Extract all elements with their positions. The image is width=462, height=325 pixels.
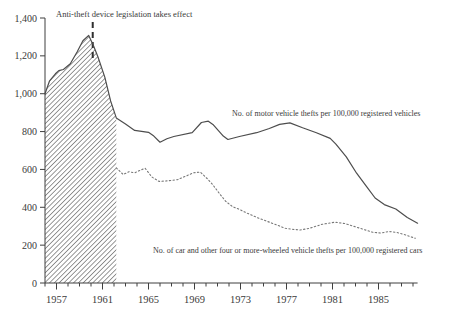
x-tick-label: 1981	[322, 294, 343, 305]
y-tick-label: 600	[22, 164, 37, 175]
y-axis-ticks: 02004006008001,0001,2001,400	[15, 13, 46, 289]
car-thefts-series-label: No. of car and other four or more-wheele…	[153, 246, 422, 255]
y-tick-label: 1,000	[15, 88, 38, 99]
x-tick-label: 1977	[276, 294, 297, 305]
y-tick-label: 1,400	[15, 13, 38, 24]
motor-vehicle-thefts-series-label: No. of motor vehicle thefts per 100,000 …	[232, 109, 420, 118]
x-tick-label: 1957	[46, 294, 67, 305]
y-tick-label: 400	[22, 202, 37, 213]
chart-canvas: 02004006008001,0001,2001,400195719611965…	[0, 0, 462, 325]
y-tick-label: 200	[22, 240, 37, 251]
y-tick-label: 1,200	[15, 50, 38, 61]
vehicle-theft-rate-chart: 02004006008001,0001,2001,400195719611965…	[0, 0, 462, 325]
y-tick-label: 0	[32, 278, 37, 289]
x-tick-label: 1985	[368, 294, 389, 305]
x-tick-label: 1965	[138, 294, 159, 305]
x-tick-label: 1961	[92, 294, 113, 305]
y-tick-label: 800	[22, 126, 37, 137]
x-tick-label: 1969	[184, 294, 205, 305]
car-thefts-line	[116, 168, 415, 238]
x-axis-ticks: 19571961196519691973197719811985	[45, 283, 413, 305]
legislation-annotation-label: Anti-theft device legislation takes effe…	[56, 9, 192, 19]
hatched-area	[45, 35, 116, 283]
x-tick-label: 1973	[230, 294, 251, 305]
